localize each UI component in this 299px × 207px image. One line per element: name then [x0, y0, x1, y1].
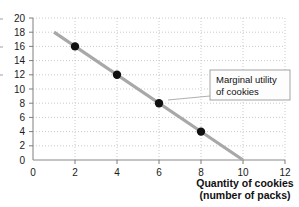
x-tick-label: 4 [114, 167, 120, 178]
y-tick-label: 18 [14, 27, 26, 38]
y-axis-ticks [29, 18, 33, 146]
x-axis-label-line2: (number of packs) [199, 189, 290, 201]
y-tick-label: 6 [19, 112, 25, 123]
callout-text-line1: Marginal utility [216, 74, 277, 85]
x-tick-label: 0 [30, 167, 36, 178]
y-tick-label: 16 [14, 41, 26, 52]
y-tick-label: 14 [14, 55, 26, 66]
data-point-marker [71, 42, 79, 50]
y-tick-label: 0 [19, 155, 25, 166]
callout-leader-line [168, 96, 210, 100]
y-tick-label: 2 [19, 140, 25, 151]
data-point-marker [197, 127, 205, 135]
y-tick-label: 4 [19, 126, 25, 137]
y-axis-tick-labels: 02468101214161820 [14, 13, 26, 166]
y-tick-label: 10 [14, 84, 26, 95]
y-tick-label: 20 [14, 13, 26, 24]
y-tick-label: 8 [19, 98, 25, 109]
x-tick-label: 2 [72, 167, 78, 178]
x-tick-label: 6 [156, 167, 162, 178]
y-tick-label: 12 [14, 69, 26, 80]
data-point-marker [155, 99, 163, 107]
chart-container: 02468101214161820 024681012 Marginal uti… [0, 0, 299, 207]
x-axis-label-line1: Quantity of cookies [196, 177, 294, 189]
image-edge-artifact [0, 18, 3, 76]
marginal-utility-line-chart: 02468101214161820 024681012 Marginal uti… [0, 0, 299, 207]
x-axis-ticks [75, 160, 285, 164]
data-point-marker [113, 71, 121, 79]
callout-text-line2: of cookies [216, 86, 259, 97]
